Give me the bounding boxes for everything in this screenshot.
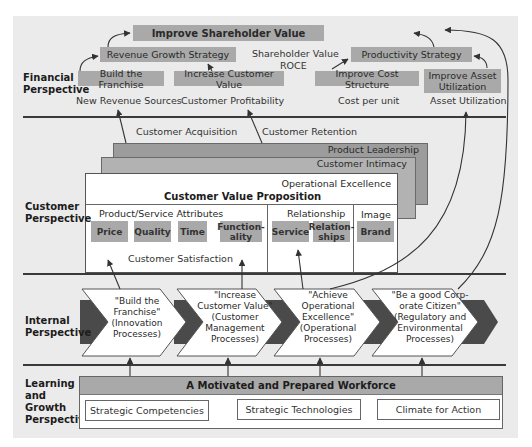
process-3-line3: Excellence" <box>297 312 359 323</box>
process-1-line2: Franchise" <box>106 307 168 318</box>
attr-time: Time <box>178 221 207 242</box>
improve-asset-label-line2: Utilization <box>439 81 487 92</box>
improve-asset-label-line1: Improve Asset <box>428 70 496 81</box>
attr-service-label: Service <box>272 227 309 237</box>
improve-cost-structure-box: Improve Cost Structure <box>315 71 419 86</box>
image-label: Image <box>361 209 391 220</box>
process-2-line4: Management <box>197 323 273 334</box>
customer-perspective-label: Customer Perspective <box>25 201 85 225</box>
process-1-line3: (Innovation <box>106 318 168 329</box>
strategic-technologies-box: Strategic Technologies <box>237 399 361 420</box>
process-4-line1: "Be a good Corp- <box>388 290 472 301</box>
attr-quality-label: Quality <box>134 227 170 237</box>
attr-relationships-line2: ships <box>318 232 345 242</box>
attr-price: Price <box>91 221 128 242</box>
improve-cost-structure-label: Improve Cost Structure <box>315 68 419 90</box>
attr-brand-label: Brand <box>360 227 390 237</box>
measure-cost-per-unit: Cost per unit <box>338 95 399 106</box>
process-4-line4: Environmental <box>388 323 472 334</box>
measure-customer-profitability: Customer Profitability <box>181 95 284 106</box>
cvp-vdivider-2 <box>353 204 354 272</box>
attr-functionality-line1: Function- <box>217 222 265 232</box>
divider-internal-learning <box>23 364 506 366</box>
process-1-line4: Processes) <box>106 329 168 340</box>
customer-perspective-text: Customer Perspective <box>25 201 91 224</box>
roce-label: ROCE <box>280 60 307 71</box>
process-3-line1: "Achieve <box>297 290 359 301</box>
attr-relationships-line1: Relation- <box>309 222 355 232</box>
process-2-line3: (Customer <box>197 312 273 323</box>
customer-satisfaction-label: Customer Satisfaction <box>128 253 233 264</box>
product-leadership-label: Product Leadership <box>328 144 419 155</box>
build-franchise-box: Build the Franchise <box>78 71 164 86</box>
relationship-label: Relationship <box>287 208 345 219</box>
revenue-growth-strategy-label: Revenue Growth Strategy <box>107 49 230 60</box>
measure-asset-utilization: Asset Utilization <box>430 95 507 106</box>
improve-asset-utilization-box: Improve Asset Utilization <box>424 69 501 93</box>
improve-shareholder-value-box: Improve Shareholder Value <box>133 25 324 41</box>
process-2-text: "Increase Customer Value" (Customer Mana… <box>197 290 273 345</box>
process-4-line5: Processes) <box>388 334 472 345</box>
cvp-vdivider-1 <box>267 204 268 272</box>
improve-shareholder-value-label: Improve Shareholder Value <box>152 28 306 39</box>
attr-functionality-line2: ality <box>230 232 252 242</box>
process-1-text: "Build the Franchise" (Innovation Proces… <box>106 296 168 340</box>
financial-perspective-label: Financial Perspective <box>23 72 83 96</box>
internal-perspective-text: Internal Perspective <box>25 315 91 338</box>
customer-acquisition-label: Customer Acquisition <box>136 126 237 137</box>
process-3-line4: (Operational <box>297 323 359 334</box>
process-1-line1: "Build the <box>106 296 168 307</box>
attr-price-label: Price <box>97 227 123 237</box>
customer-intimacy-label: Customer Intimacy <box>317 158 407 169</box>
strategic-competencies-box: Strategic Competencies <box>85 400 209 421</box>
productivity-strategy-box: Productivity Strategy <box>351 47 472 62</box>
process-2-line2: Customer Value" <box>197 301 273 312</box>
process-3-text: "Achieve Operational Excellence" (Operat… <box>297 290 359 345</box>
shareholder-value-label: Shareholder Value <box>252 48 339 59</box>
divider-customer-internal <box>23 273 506 275</box>
financial-perspective-text: Financial Perspective <box>23 72 89 95</box>
process-3-line2: Operational <box>297 301 359 312</box>
workforce-header: A Motivated and Prepared Workforce <box>80 377 502 395</box>
internal-perspective-label: Internal Perspective <box>25 315 85 339</box>
attr-time-label: Time <box>180 227 205 237</box>
process-4-text: "Be a good Corp- orate Citizen" (Regulat… <box>388 290 472 345</box>
process-3-line5: Processes) <box>297 334 359 345</box>
build-franchise-label: Build the Franchise <box>78 68 164 90</box>
increase-customer-value-label: Increase Customer Value <box>174 68 284 90</box>
cvp-divider <box>86 204 397 205</box>
attr-brand: Brand <box>357 221 394 242</box>
attr-service: Service <box>272 221 309 242</box>
process-2-line1: "Increase <box>197 290 273 301</box>
process-4-line2: orate Citizen" <box>388 301 472 312</box>
customer-retention-label: Customer Retention <box>262 126 357 137</box>
attr-relationships: Relation-ships <box>313 221 350 242</box>
workforce-header-label: A Motivated and Prepared Workforce <box>186 380 396 391</box>
revenue-growth-strategy-box: Revenue Growth Strategy <box>100 47 236 62</box>
strategic-technologies-label: Strategic Technologies <box>246 404 353 415</box>
increase-customer-value-box: Increase Customer Value <box>174 71 284 86</box>
operational-excellence-label: Operational Excellence <box>282 178 392 189</box>
climate-for-action-box: Climate for Action <box>377 399 500 420</box>
cvp-title: Customer Value Proposition <box>164 191 321 202</box>
climate-for-action-label: Climate for Action <box>396 404 481 415</box>
measure-new-revenue-sources: New Revenue Sources <box>76 95 182 106</box>
attr-quality: Quality <box>134 221 171 242</box>
attr-functionality: Function-ality <box>220 221 262 242</box>
divider-financial-customer <box>23 116 506 118</box>
product-service-attributes-label: Product/Service Attributes <box>99 208 223 219</box>
strategic-competencies-label: Strategic Competencies <box>90 405 204 416</box>
process-4-line3: (Regulatory and <box>388 312 472 323</box>
productivity-strategy-label: Productivity Strategy <box>361 49 461 60</box>
process-2-line5: Processes) <box>197 334 273 345</box>
